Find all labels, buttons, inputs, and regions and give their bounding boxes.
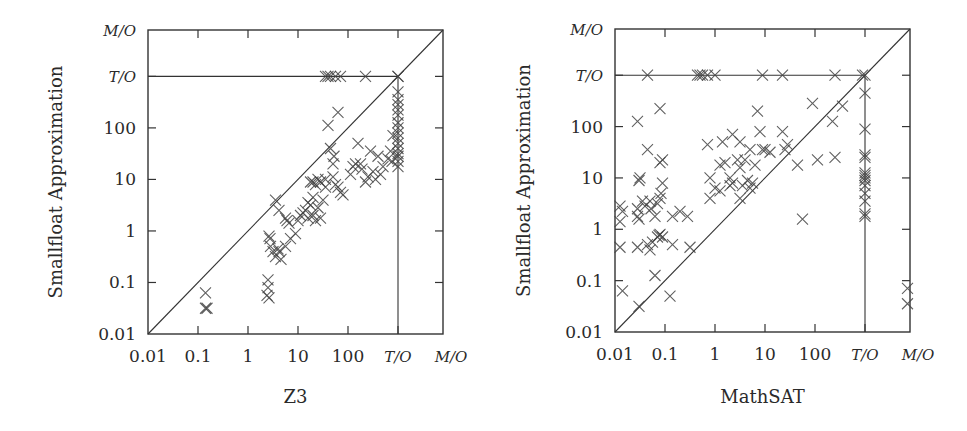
data-point-x-marker	[682, 211, 693, 222]
data-point-x-marker	[375, 169, 386, 180]
data-point-x-marker	[792, 160, 803, 171]
y-tick-label: 100	[104, 118, 136, 138]
data-point-x-marker	[765, 147, 776, 158]
x-tick-label: 10	[754, 344, 776, 364]
data-point-x-marker	[338, 189, 349, 200]
data-point-x-marker	[263, 282, 274, 293]
data-point-x-marker	[830, 152, 841, 163]
y-tick-label: 1	[125, 221, 136, 241]
data-point-x-marker	[318, 195, 329, 206]
y-tick-label: 0.1	[576, 271, 603, 291]
data-point-x-marker	[665, 291, 676, 302]
x-axis-title: Z3	[284, 386, 308, 407]
data-point-x-marker	[345, 169, 356, 180]
z3-scatter-plot: 0.010.1110100T/OM/O0.010.1110100T/OM/OZ3…	[0, 0, 480, 431]
data-point-x-marker	[837, 101, 848, 112]
data-point-x-marker	[902, 283, 913, 294]
data-point-x-marker	[702, 139, 713, 150]
data-point-x-marker	[642, 144, 653, 155]
data-point-x-marker	[274, 205, 285, 216]
data-point-x-marker	[657, 178, 668, 189]
data-point-x-marker	[715, 185, 726, 196]
data-point-x-marker	[777, 126, 788, 137]
y-tick-label: 0.1	[109, 272, 136, 292]
data-point-x-marker	[667, 211, 678, 222]
x-tick-label: 0.01	[129, 346, 167, 366]
y-tick-label: 0.01	[565, 322, 603, 342]
data-point-x-marker	[720, 157, 731, 168]
data-points	[615, 70, 914, 312]
data-point-x-marker	[365, 146, 376, 157]
data-point-x-marker	[705, 193, 716, 204]
x-tick-label: 0.1	[184, 346, 211, 366]
data-point-x-marker	[755, 126, 766, 137]
data-point-x-marker	[782, 139, 793, 150]
x-axis-title: MathSAT	[720, 386, 804, 407]
x-tick-label: T/O	[384, 348, 411, 366]
data-point-x-marker	[745, 144, 756, 155]
data-point-x-marker	[757, 144, 768, 155]
mathsat-scatter-svg: 0.010.1110100T/OM/O0.010.1110100T/OM/OMa…	[480, 0, 967, 431]
data-point-x-marker	[270, 195, 281, 206]
data-point-x-marker	[752, 106, 763, 117]
data-point-x-marker	[655, 157, 666, 168]
x-tick-label: M/O	[901, 346, 935, 364]
x-tick-label: 10	[287, 346, 309, 366]
data-point-x-marker	[902, 298, 913, 309]
x-tick-label: 0.01	[596, 344, 634, 364]
data-point-x-marker	[750, 160, 761, 171]
y-tick-label: 10	[114, 169, 136, 189]
y-tick-label: 100	[571, 117, 603, 137]
x-tick-label: 1	[243, 346, 254, 366]
data-point-x-marker	[675, 206, 686, 217]
data-point-x-marker	[740, 154, 751, 165]
x-tick-label: 0.1	[651, 344, 678, 364]
data-point-x-marker	[368, 166, 379, 177]
data-point-x-marker	[705, 172, 716, 183]
mathsat-scatter-plot: 0.010.1110100T/OM/O0.010.1110100T/OM/OMa…	[480, 0, 967, 431]
data-point-x-marker	[725, 180, 736, 191]
y-tick-label: 1	[592, 219, 603, 239]
data-point-x-marker	[745, 183, 756, 194]
data-point-x-marker	[308, 192, 319, 203]
data-points	[200, 71, 404, 314]
y-axis-title: Smallfloat Approximation	[45, 65, 66, 298]
x-tick-label: T/O	[851, 346, 878, 364]
data-point-x-marker	[383, 153, 394, 164]
data-point-x-marker	[323, 120, 334, 131]
data-point-x-marker	[328, 158, 339, 169]
y-tick-label: 0.01	[98, 324, 136, 344]
data-point-x-marker	[632, 116, 643, 127]
data-point-x-marker	[200, 303, 211, 314]
data-point-x-marker	[202, 303, 213, 314]
data-point-x-marker	[315, 213, 326, 224]
data-point-x-marker	[634, 301, 645, 312]
y-tick-label: T/O	[109, 68, 136, 86]
data-point-x-marker	[735, 136, 746, 147]
data-point-x-marker	[807, 98, 818, 109]
x-tick-label: 100	[799, 344, 831, 364]
data-point-x-marker	[353, 138, 364, 149]
data-point-x-marker	[827, 116, 838, 127]
data-point-x-marker	[320, 182, 331, 193]
x-tick-label: M/O	[434, 348, 468, 366]
data-point-x-marker	[280, 241, 291, 252]
data-point-x-marker	[717, 136, 728, 147]
y-tick-label: T/O	[576, 67, 603, 85]
data-point-x-marker	[645, 196, 656, 207]
data-point-x-marker	[650, 270, 661, 281]
y-axis-title: Smallfloat Approximation	[513, 64, 534, 297]
data-point-x-marker	[350, 158, 361, 169]
data-point-x-marker	[290, 228, 301, 239]
data-point-x-marker	[812, 154, 823, 165]
data-point-x-marker	[373, 151, 384, 162]
data-point-x-marker	[617, 285, 628, 296]
x-tick-label: 1	[710, 344, 721, 364]
x-tick-label: 100	[332, 346, 364, 366]
data-point-x-marker	[735, 193, 746, 204]
y-tick-label: M/O	[569, 21, 603, 39]
data-point-x-marker	[615, 216, 626, 227]
data-point-x-marker	[200, 287, 211, 298]
data-point-x-marker	[632, 242, 643, 253]
data-point-x-marker	[667, 239, 678, 250]
